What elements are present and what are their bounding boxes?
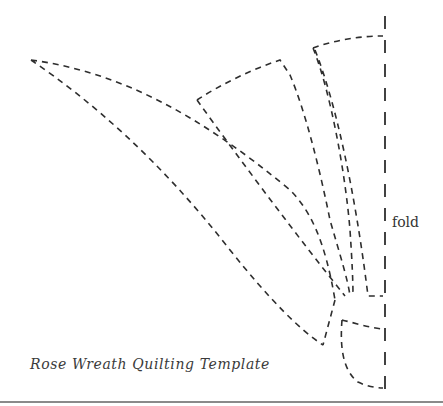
bottom-divider bbox=[0, 401, 443, 403]
quilting-template-diagram bbox=[0, 0, 443, 406]
template-title: Rose Wreath Quilting Template bbox=[30, 356, 270, 372]
fold-label: fold bbox=[392, 214, 419, 230]
long-leaf-piece bbox=[31, 60, 335, 345]
upper-petal-piece bbox=[313, 36, 383, 296]
small-base-piece bbox=[341, 320, 383, 388]
